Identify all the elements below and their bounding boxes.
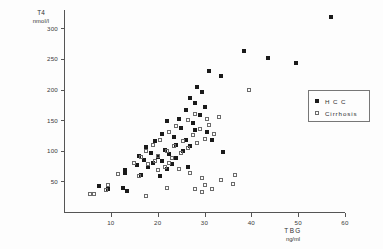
data-point-hcc	[221, 150, 225, 154]
data-point-cirrhosis	[137, 174, 141, 178]
data-point-hcc	[160, 132, 164, 136]
y-axis-tick	[61, 120, 65, 121]
data-point-cirrhosis	[146, 162, 150, 166]
chart-legend: H C C Cirrhosis	[308, 90, 370, 122]
data-point-hcc	[179, 126, 183, 130]
y-axis-tick-label: 250	[36, 55, 58, 62]
data-point-cirrhosis	[186, 146, 190, 150]
data-point-cirrhosis	[203, 137, 207, 141]
x-axis-tick	[345, 213, 346, 217]
data-point-cirrhosis	[165, 186, 169, 190]
data-point-hcc	[198, 113, 202, 117]
legend-label-cirrhosis: Cirrhosis	[325, 110, 358, 117]
data-point-cirrhosis	[219, 178, 223, 182]
data-point-hcc	[121, 186, 125, 190]
data-point-cirrhosis	[193, 112, 197, 116]
data-point-cirrhosis	[163, 165, 167, 169]
data-point-cirrhosis	[144, 194, 148, 198]
y-axis-line	[64, 10, 65, 213]
data-point-cirrhosis	[231, 182, 235, 186]
data-point-cirrhosis	[205, 117, 209, 121]
data-point-cirrhosis	[132, 161, 136, 165]
data-point-hcc	[123, 171, 127, 175]
data-point-cirrhosis	[153, 159, 157, 163]
data-point-hcc	[97, 184, 101, 188]
data-point-cirrhosis	[177, 167, 181, 171]
x-axis-unit: ng/ml	[262, 235, 324, 244]
data-point-cirrhosis	[174, 124, 178, 128]
data-point-cirrhosis	[203, 183, 207, 187]
y-axis-tick-label: 200	[36, 86, 58, 93]
data-point-hcc	[294, 61, 298, 65]
data-point-cirrhosis	[92, 192, 96, 196]
data-point-cirrhosis	[88, 192, 92, 196]
legend-marker-open-square-icon	[315, 111, 319, 115]
y-axis-tick	[61, 181, 65, 182]
data-point-cirrhosis	[106, 183, 110, 187]
x-axis-tick-label: 50	[288, 219, 308, 226]
data-point-cirrhosis	[172, 144, 176, 148]
data-point-hcc	[184, 108, 188, 112]
data-point-hcc	[191, 121, 195, 125]
y-axis-name: T4	[37, 9, 44, 16]
data-point-hcc	[158, 174, 162, 178]
data-point-hcc	[172, 135, 176, 139]
data-point-cirrhosis	[200, 190, 204, 194]
data-point-hcc	[203, 105, 207, 109]
y-axis-tick	[61, 151, 65, 152]
legend-label-hcc: H C C	[325, 98, 346, 105]
data-point-cirrhosis	[170, 156, 174, 160]
legend-marker-filled-square-icon	[315, 99, 319, 103]
data-point-hcc	[193, 101, 197, 105]
data-point-hcc	[160, 159, 164, 163]
data-point-hcc	[177, 117, 181, 121]
data-point-hcc	[266, 56, 270, 60]
x-axis-name: TBG	[262, 226, 324, 235]
data-point-cirrhosis	[217, 115, 221, 119]
data-point-hcc	[125, 189, 129, 193]
data-point-cirrhosis	[198, 127, 202, 131]
data-point-hcc	[207, 69, 211, 73]
data-point-hcc	[200, 90, 204, 94]
data-point-cirrhosis	[179, 151, 183, 155]
data-point-hcc	[188, 96, 192, 100]
data-point-hcc	[329, 15, 333, 19]
x-axis-tick	[251, 213, 252, 217]
data-point-cirrhosis	[195, 141, 199, 145]
data-point-cirrhosis	[156, 154, 160, 158]
y-axis-tick	[61, 59, 65, 60]
data-point-cirrhosis	[151, 143, 155, 147]
data-point-cirrhosis	[181, 139, 185, 143]
data-point-hcc	[219, 74, 223, 78]
x-axis-tick-label: 20	[148, 219, 168, 226]
legend-item-hcc: H C C	[315, 95, 369, 107]
y-axis-tick-label: 50	[36, 178, 58, 185]
data-point-cirrhosis	[165, 149, 169, 153]
data-point-hcc	[205, 130, 209, 134]
x-axis-tick-label: 40	[241, 219, 261, 226]
data-point-hcc	[195, 85, 199, 89]
data-point-hcc	[193, 128, 197, 132]
data-point-cirrhosis	[212, 132, 216, 136]
data-point-cirrhosis	[186, 118, 190, 122]
data-point-cirrhosis	[207, 123, 211, 127]
x-axis-tick-label: 60	[335, 219, 355, 226]
data-point-hcc	[165, 119, 169, 123]
data-point-cirrhosis	[116, 172, 120, 176]
data-point-cirrhosis	[233, 173, 237, 177]
data-point-cirrhosis	[144, 149, 148, 153]
data-point-cirrhosis	[191, 133, 195, 137]
data-point-cirrhosis	[167, 161, 171, 165]
data-point-cirrhosis	[193, 187, 197, 191]
data-point-cirrhosis	[210, 187, 214, 191]
x-axis-title: TBG ng/ml	[262, 226, 324, 244]
x-axis-tick	[205, 213, 206, 217]
y-axis-tick-label: 300	[36, 25, 58, 32]
x-axis-tick-label: 30	[195, 219, 215, 226]
data-point-cirrhosis	[167, 130, 171, 134]
legend-item-cirrhosis: Cirrhosis	[315, 107, 369, 119]
data-point-hcc	[210, 138, 214, 142]
y-axis-tick	[61, 90, 65, 91]
y-axis-tick-label: 150	[36, 117, 58, 124]
y-axis-title: T4 nmol/l	[18, 8, 64, 26]
